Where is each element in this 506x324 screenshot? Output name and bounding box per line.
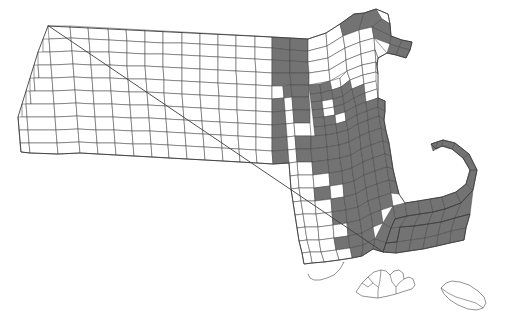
town-polygon[interactable] xyxy=(57,142,80,154)
town-polygon[interactable] xyxy=(311,147,328,162)
town-polygon[interactable] xyxy=(94,104,113,117)
town-polygon[interactable] xyxy=(145,66,164,80)
town-polygon[interactable] xyxy=(79,142,98,154)
town-polygon[interactable] xyxy=(272,150,289,164)
town-polygon[interactable] xyxy=(256,72,272,86)
town-polygon[interactable] xyxy=(236,71,256,85)
town-polygon[interactable] xyxy=(185,133,204,147)
town-polygon[interactable] xyxy=(301,201,316,214)
town-polygon[interactable] xyxy=(93,91,112,104)
town-polygon[interactable] xyxy=(405,201,420,216)
town-polygon[interactable] xyxy=(256,85,272,99)
town-polygon[interactable] xyxy=(182,43,200,56)
town-polygon[interactable] xyxy=(328,158,342,173)
town-polygon[interactable] xyxy=(311,135,327,149)
town-polygon[interactable] xyxy=(55,116,78,130)
town-polygon[interactable] xyxy=(145,42,163,54)
town-polygon[interactable] xyxy=(110,65,128,79)
town-polygon[interactable] xyxy=(168,145,187,159)
town-polygon[interactable] xyxy=(26,104,55,117)
town-polygon[interactable] xyxy=(74,77,93,91)
town-polygon[interactable] xyxy=(272,48,290,61)
town-polygon[interactable] xyxy=(56,129,79,143)
town-polygon[interactable] xyxy=(288,149,297,163)
town-polygon[interactable] xyxy=(290,175,299,189)
town-polygon[interactable] xyxy=(164,80,182,94)
town-polygon[interactable] xyxy=(218,45,236,58)
town-polygon[interactable] xyxy=(76,103,95,117)
town-polygon[interactable] xyxy=(73,64,92,78)
town-polygon[interactable] xyxy=(182,94,201,108)
town-polygon[interactable] xyxy=(127,41,145,54)
town-polygon[interactable] xyxy=(293,110,310,123)
town-polygon[interactable] xyxy=(128,79,147,92)
town-polygon[interactable] xyxy=(30,91,54,104)
town-polygon[interactable] xyxy=(133,144,152,157)
town-polygon[interactable] xyxy=(290,38,308,51)
town-polygon[interactable] xyxy=(294,123,311,136)
town-polygon[interactable] xyxy=(27,117,56,130)
town-polygon[interactable] xyxy=(109,40,127,53)
town-polygon[interactable] xyxy=(38,65,52,78)
town-polygon[interactable] xyxy=(290,50,308,62)
town-polygon[interactable] xyxy=(333,223,348,238)
town-polygon[interactable] xyxy=(127,53,145,66)
town-polygon[interactable] xyxy=(201,108,220,122)
town-polygon[interactable] xyxy=(314,186,331,201)
town-polygon[interactable] xyxy=(92,78,111,91)
town-polygon[interactable] xyxy=(326,133,339,147)
town-polygon[interactable] xyxy=(112,104,131,118)
town-polygon[interactable] xyxy=(113,117,132,131)
town-polygon[interactable] xyxy=(272,86,284,99)
town-polygon[interactable] xyxy=(127,66,146,79)
town-polygon[interactable] xyxy=(236,58,256,72)
town-polygon[interactable] xyxy=(184,120,203,134)
town-polygon[interactable] xyxy=(129,92,148,105)
town-polygon[interactable] xyxy=(237,110,256,124)
town-polygon[interactable] xyxy=(146,79,164,93)
town-polygon[interactable] xyxy=(130,105,149,118)
town-polygon[interactable] xyxy=(330,184,344,199)
town-polygon[interactable] xyxy=(218,34,236,46)
town-polygon[interactable] xyxy=(290,73,309,85)
town-polygon[interactable] xyxy=(311,101,323,110)
town-polygon[interactable] xyxy=(145,54,163,67)
town-polygon[interactable] xyxy=(200,33,218,45)
town-polygon[interactable] xyxy=(163,43,182,55)
town-polygon[interactable] xyxy=(314,126,326,136)
town-polygon[interactable] xyxy=(110,78,129,92)
town-polygon[interactable] xyxy=(20,143,30,153)
town-polygon[interactable] xyxy=(111,91,130,105)
town-polygon[interactable] xyxy=(312,109,324,118)
town-polygon[interactable] xyxy=(272,73,291,86)
town-polygon[interactable] xyxy=(220,122,238,136)
town-polygon[interactable] xyxy=(331,197,346,212)
town-polygon[interactable] xyxy=(89,39,109,52)
town-polygon[interactable] xyxy=(109,52,127,66)
town-polygon[interactable] xyxy=(287,136,296,150)
town-polygon[interactable] xyxy=(292,97,310,110)
town-polygon[interactable] xyxy=(284,97,293,111)
town-polygon[interactable] xyxy=(29,143,58,154)
town-polygon[interactable] xyxy=(237,97,256,111)
town-polygon[interactable] xyxy=(312,160,329,175)
town-polygon[interactable] xyxy=(272,111,286,125)
town-polygon[interactable] xyxy=(256,111,272,125)
town-polygon[interactable] xyxy=(297,162,313,175)
town-polygon[interactable] xyxy=(202,121,221,135)
town-polygon[interactable] xyxy=(305,227,319,240)
town-polygon[interactable] xyxy=(218,83,237,97)
town-polygon[interactable] xyxy=(218,57,236,71)
town-polygon[interactable] xyxy=(167,132,186,146)
town-polygon[interactable] xyxy=(272,98,285,112)
town-polygon[interactable] xyxy=(200,69,218,83)
town-polygon[interactable] xyxy=(283,85,292,98)
town-polygon[interactable] xyxy=(182,68,200,82)
town-polygon[interactable] xyxy=(316,212,333,227)
town-polygon[interactable] xyxy=(38,52,51,65)
town-polygon[interactable] xyxy=(150,131,168,145)
town-polygon[interactable] xyxy=(18,117,28,130)
town-polygon[interactable] xyxy=(289,162,298,176)
town-polygon[interactable] xyxy=(236,35,255,47)
town-polygon[interactable] xyxy=(96,130,115,143)
